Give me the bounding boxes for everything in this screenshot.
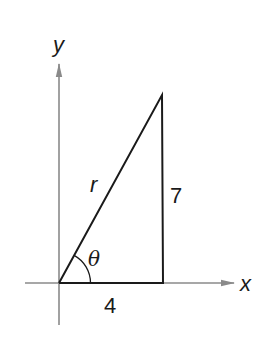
- right-triangle: [59, 95, 163, 283]
- angle-label: θ: [88, 247, 100, 271]
- hypotenuse-label: r: [90, 172, 99, 197]
- opposite-side-label: 7: [170, 183, 182, 208]
- x-axis-label: x: [239, 271, 252, 296]
- y-axis-label: y: [51, 32, 66, 57]
- diagram-canvas: y x r 7 4 θ: [0, 0, 265, 337]
- adjacent-side-label: 4: [104, 293, 116, 318]
